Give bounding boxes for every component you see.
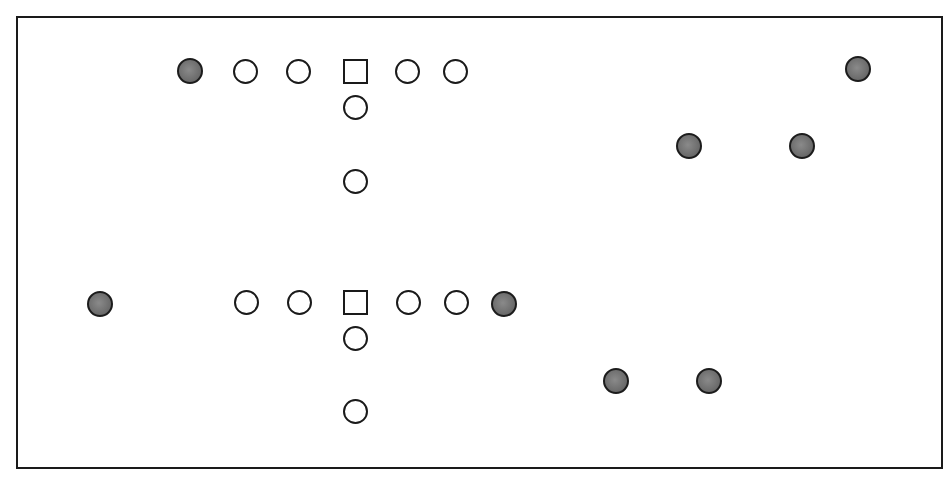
filled-circle-marker: [696, 368, 722, 394]
open-circle-marker: [233, 59, 258, 84]
filled-circle-marker: [845, 56, 871, 82]
filled-circle-marker: [603, 368, 629, 394]
open-circle-marker: [343, 399, 368, 424]
filled-circle-marker: [87, 291, 113, 317]
open-square-marker: [343, 290, 368, 315]
open-circle-marker: [286, 59, 311, 84]
open-circle-marker: [444, 290, 469, 315]
open-circle-marker: [343, 95, 368, 120]
filled-circle-marker: [177, 58, 203, 84]
filled-circle-marker: [491, 291, 517, 317]
open-circle-marker: [395, 59, 420, 84]
filled-circle-marker: [789, 133, 815, 159]
open-circle-marker: [343, 326, 368, 351]
diagram-frame: [16, 16, 943, 469]
open-circle-marker: [234, 290, 259, 315]
open-square-marker: [343, 59, 368, 84]
open-circle-marker: [287, 290, 312, 315]
filled-circle-marker: [676, 133, 702, 159]
open-circle-marker: [343, 169, 368, 194]
open-circle-marker: [443, 59, 468, 84]
open-circle-marker: [396, 290, 421, 315]
